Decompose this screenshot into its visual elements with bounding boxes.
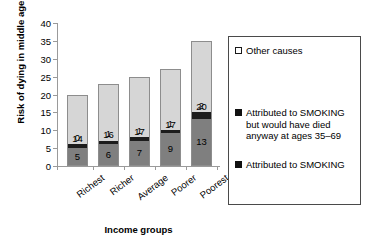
legend-item-smoking[interactable]: Attributed to SMOKING <box>235 159 355 171</box>
x-tick-label-richer: Richer <box>108 172 137 197</box>
bar-value-label: 0 <box>75 133 80 143</box>
x-tick-label-poorer: Poorer <box>168 172 197 198</box>
legend-item-other[interactable]: Other causes <box>235 45 355 57</box>
y-tick <box>53 23 57 24</box>
plot-area: 0510152025303540 145016611771179120132 <box>57 23 220 167</box>
y-tick-label: 35 <box>40 35 51 46</box>
legend-swatch-icon <box>235 47 242 54</box>
y-tick <box>53 41 57 42</box>
bar-value-label: 6 <box>106 150 111 160</box>
x-tick <box>155 166 156 170</box>
bar-value-label: 1 <box>137 126 142 136</box>
bar-value-label: 1 <box>106 129 111 139</box>
bar-segment: 6 <box>99 144 118 165</box>
x-tick <box>57 166 58 170</box>
bar-segment: 13 <box>192 119 211 165</box>
y-tick-label: 25 <box>40 71 51 82</box>
y-axis-title: Risk of dying in middle age (%) <box>15 0 26 129</box>
bar-segment: 5 <box>68 148 87 165</box>
y-tick <box>53 148 57 149</box>
x-axis-title: Income groups <box>57 224 220 235</box>
legend: Other causesAttributed to SMOKING but wo… <box>228 36 361 205</box>
y-tick <box>53 59 57 60</box>
legend-swatch-icon <box>235 109 242 116</box>
bar-average: 1771 <box>129 77 150 166</box>
bar-value-label: 2 <box>199 101 204 111</box>
bar-poorer: 1791 <box>160 69 181 166</box>
legend-swatch-icon <box>235 161 242 168</box>
bar-poorest: 20132 <box>191 41 212 166</box>
x-axis-line <box>57 166 220 167</box>
y-tick-label: 10 <box>40 125 51 136</box>
y-tick-label: 0 <box>46 161 51 172</box>
legend-label: Other causes <box>246 45 303 57</box>
bar-richest: 1450 <box>67 95 88 166</box>
x-tick <box>217 166 218 170</box>
x-tick <box>124 166 125 170</box>
y-tick <box>53 77 57 78</box>
y-tick-label: 20 <box>40 89 51 100</box>
y-tick <box>53 130 57 131</box>
chart-figure: Risk of dying in middle age (%) 05101520… <box>0 0 369 246</box>
y-tick-label: 5 <box>46 143 51 154</box>
bar-value-label: 13 <box>196 137 207 147</box>
legend-item-anyway[interactable]: Attributed to SMOKING but would have die… <box>235 107 355 142</box>
legend-label: Attributed to SMOKING but would have die… <box>246 107 355 142</box>
y-axis-line <box>57 23 58 167</box>
bar-segment <box>192 112 211 119</box>
bar-value-label: 9 <box>168 144 173 154</box>
y-tick-label: 40 <box>40 18 51 29</box>
y-tick <box>53 112 57 113</box>
bar-value-label: 7 <box>137 148 142 158</box>
legend-label: Attributed to SMOKING <box>246 159 345 171</box>
x-tick-label-average: Average <box>135 172 170 202</box>
bar-richer: 1661 <box>98 84 119 166</box>
y-tick-label: 30 <box>40 53 51 64</box>
bar-segment: 7 <box>130 141 149 165</box>
x-tick-label-poorest: Poorest <box>197 172 230 200</box>
bar-segment: 9 <box>161 133 180 165</box>
y-tick <box>53 95 57 96</box>
bar-value-label: 1 <box>168 119 173 129</box>
bar-value-label: 5 <box>75 152 80 162</box>
x-tick <box>93 166 94 170</box>
x-tick <box>186 166 187 170</box>
x-tick-label-richest: Richest <box>74 172 106 200</box>
y-tick-label: 15 <box>40 107 51 118</box>
